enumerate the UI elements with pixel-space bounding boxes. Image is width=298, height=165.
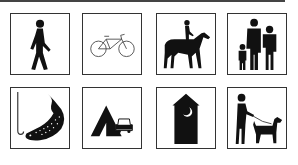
symbol-dogs: Dog walking [227,87,287,149]
symbol-fishing: Fishing [10,87,70,149]
symbol-toilet: Outhouse / toilet [156,87,216,149]
dog-walker-icon [228,88,286,148]
family-icon [228,14,286,74]
symbol-camping: Camping [82,87,142,149]
horse-rider-icon [157,14,215,74]
top-rule [0,0,285,2]
bicycle-icon [83,14,141,74]
symbol-horseback: Horseback riding [156,13,216,75]
outhouse-icon [157,88,215,148]
fish-hook-icon [11,88,69,148]
tent-car-icon [83,88,141,148]
symbol-bicycling: Bicycle trail [82,13,142,75]
hiker-icon [11,14,69,74]
symbol-hiking: Hiking trail [10,13,70,75]
symbol-family: Family area [227,13,287,75]
